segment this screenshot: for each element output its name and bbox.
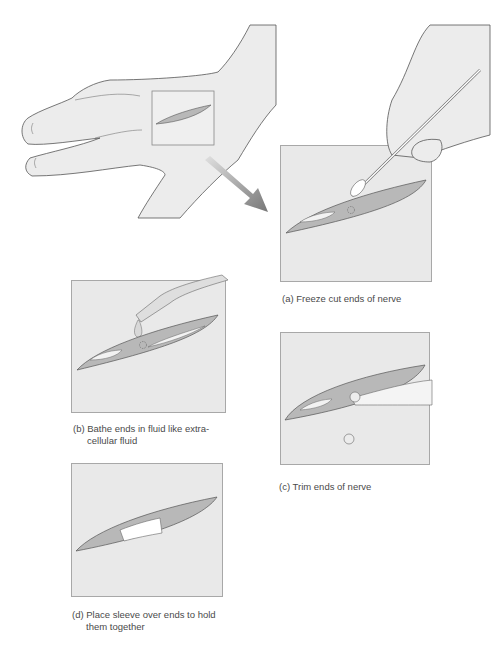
caption-d: (d) Place sleeve over ends to hold them … (72, 609, 216, 633)
panel-d-illustration (0, 0, 503, 648)
caption-d-line2: them together (72, 621, 216, 633)
caption-d-line1: (d) Place sleeve over ends to hold (72, 609, 216, 620)
